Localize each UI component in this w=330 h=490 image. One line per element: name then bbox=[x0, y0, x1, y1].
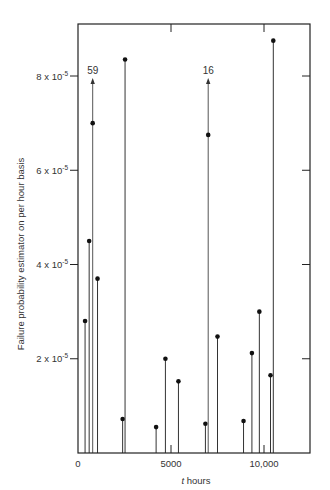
y-tick-label-exponent: -5 bbox=[62, 164, 68, 171]
data-point bbox=[241, 419, 246, 424]
x-axis-label: t hours bbox=[181, 475, 210, 486]
y-tick-label: 6 x 10-5 bbox=[36, 164, 68, 176]
off-scale-arrowhead bbox=[206, 78, 210, 84]
x-tick-label: 10,000 bbox=[249, 458, 278, 469]
y-tick-label-exponent: -5 bbox=[62, 258, 68, 265]
off-scale-annotation: 16 bbox=[203, 65, 215, 76]
y-tick-label-exponent: -5 bbox=[62, 70, 68, 77]
x-axis-label-rest: hours bbox=[184, 475, 211, 486]
data-point bbox=[123, 57, 128, 62]
data-point bbox=[206, 133, 211, 138]
y-tick-label-base: 2 x 10 bbox=[36, 353, 62, 364]
y-tick-label: 2 x 10-5 bbox=[36, 352, 68, 364]
y-axis-label: Failure probability estimator on per hou… bbox=[15, 157, 26, 350]
data-point bbox=[271, 38, 276, 43]
data-point bbox=[120, 417, 125, 422]
y-tick-label-exponent: -5 bbox=[62, 352, 68, 359]
plot-area: 5916 bbox=[83, 38, 276, 453]
data-point bbox=[257, 309, 262, 314]
y-tick-label-base: 6 x 10 bbox=[36, 165, 62, 176]
y-tick-label-base: 8 x 10 bbox=[36, 71, 62, 82]
data-point bbox=[268, 373, 273, 378]
data-point bbox=[176, 379, 181, 384]
x-axis: 0500010,000 bbox=[75, 24, 278, 469]
x-tick-label: 0 bbox=[75, 458, 80, 469]
y-axis: 2 x 10-54 x 10-56 x 10-58 x 10-5 bbox=[36, 70, 310, 365]
data-point bbox=[215, 334, 220, 339]
stem-chart: 5916 0500010,000 2 x 10-54 x 10-56 x 10-… bbox=[0, 0, 330, 490]
data-point bbox=[163, 356, 168, 361]
data-point bbox=[203, 421, 208, 426]
off-scale-arrowhead bbox=[90, 78, 94, 84]
data-point bbox=[250, 351, 255, 356]
off-scale-annotation: 59 bbox=[87, 65, 99, 76]
y-tick-label-base: 4 x 10 bbox=[36, 259, 62, 270]
data-point bbox=[87, 239, 92, 244]
data-point bbox=[90, 121, 95, 126]
data-point bbox=[95, 276, 100, 281]
y-tick-label: 4 x 10-5 bbox=[36, 258, 68, 270]
x-tick-label: 5000 bbox=[160, 458, 181, 469]
data-point bbox=[154, 425, 159, 430]
y-tick-label: 8 x 10-5 bbox=[36, 70, 68, 82]
data-point bbox=[83, 319, 88, 324]
plot-frame bbox=[78, 24, 310, 453]
